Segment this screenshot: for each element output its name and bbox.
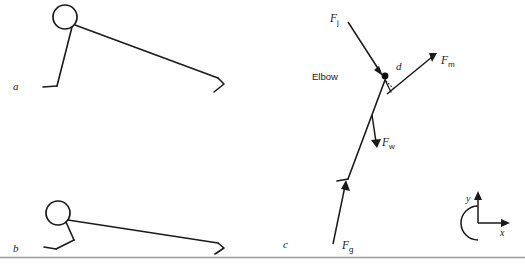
panel-b-foot-hook-icon bbox=[215, 243, 224, 254]
figure-canvas: a b Elbow Fj bbox=[0, 0, 525, 267]
x-axis-arrowhead-icon bbox=[501, 219, 510, 227]
rotation-arc-icon bbox=[461, 206, 478, 240]
force-fj-vector bbox=[348, 22, 379, 70]
panel-a-foot-hook-icon bbox=[214, 78, 224, 92]
upper-arm-stub-line bbox=[385, 80, 391, 92]
force-fj-arrowhead-icon bbox=[374, 66, 383, 76]
force-fg-vector bbox=[333, 186, 345, 244]
force-fw-arrowhead-icon bbox=[371, 139, 381, 148]
elbow-joint-dot bbox=[382, 73, 389, 80]
panel-a-head-icon bbox=[53, 5, 77, 29]
panel-a-torso-line bbox=[75, 25, 218, 78]
panel-b-upper-arm-line bbox=[66, 222, 74, 240]
panel-b-forearm-line bbox=[56, 240, 74, 249]
panel-b-figure bbox=[44, 201, 224, 254]
panel-b-label: b bbox=[13, 242, 19, 254]
elbow-label: Elbow bbox=[312, 71, 338, 82]
panel-c-label: c bbox=[283, 238, 288, 250]
panel-a-figure bbox=[43, 5, 224, 92]
force-fg-arrowhead-icon bbox=[341, 180, 350, 191]
force-fj-label: Fj bbox=[329, 12, 339, 27]
panel-c-free-body: Elbow Fj Fm d Fw Fg bbox=[312, 12, 455, 254]
forearm-segment-line bbox=[348, 80, 385, 179]
coordinate-system-key: y x bbox=[461, 191, 510, 240]
moment-arm-label: d bbox=[396, 60, 402, 72]
panel-b-torso-line bbox=[68, 220, 218, 243]
y-axis-label: y bbox=[465, 193, 471, 204]
panel-a-label: a bbox=[13, 80, 19, 92]
force-fm-arrowhead-icon bbox=[429, 53, 437, 62]
panel-a-arm-line bbox=[57, 27, 72, 86]
figure-root: a b Elbow Fj bbox=[0, 0, 525, 267]
panel-b-hand-icon bbox=[44, 247, 56, 249]
force-fm-label: Fm bbox=[440, 54, 455, 69]
force-fg-label: Fg bbox=[341, 239, 353, 254]
hand-segment-icon bbox=[337, 179, 348, 181]
panel-a-hand-icon bbox=[43, 86, 57, 87]
force-fw-vector bbox=[372, 115, 376, 142]
x-axis-label: x bbox=[499, 227, 505, 238]
force-fw-label: Fw bbox=[381, 136, 395, 151]
y-axis-arrowhead-icon bbox=[474, 191, 482, 200]
